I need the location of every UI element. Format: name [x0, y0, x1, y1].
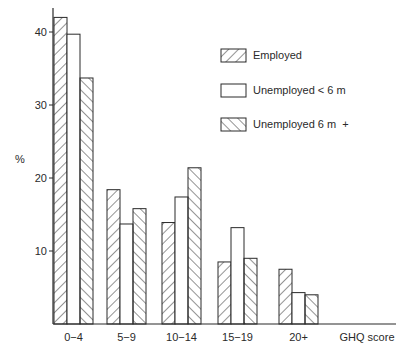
bar-unemployed-6-m-4 [244, 258, 257, 324]
legend-item-unemployed-lt-6m: Unemployed < 6 m [221, 84, 346, 97]
legend-swatch-unemployed-lt-6m [221, 84, 246, 97]
legend-swatch-unemployed-6m-plus [221, 118, 246, 131]
legend-label-employed: Employed [253, 49, 302, 61]
bar-unemployed-6-m-5 [292, 293, 305, 324]
bar-unemployed-6-m-1 [67, 34, 80, 324]
bar-unemployed-6-m-3 [175, 197, 188, 324]
bar-unemployed-6-m-4 [231, 228, 244, 324]
legend-swatch-employed [221, 49, 246, 62]
legend-label-unemployed-lt-6m: Unemployed < 6 m [253, 84, 346, 96]
x-axis-label: GHQ score [339, 331, 394, 343]
legend: Employed Unemployed < 6 m Unemployed 6 m… [221, 49, 349, 131]
bar-unemployed-6-m-2 [120, 224, 133, 324]
legend-label-unemployed-6m-plus: Unemployed 6 m + [253, 118, 349, 130]
y-tick-label: 30 [35, 99, 47, 111]
x-category-label: 15−19 [222, 331, 253, 343]
bars-group [54, 17, 318, 324]
x-category-label: 10−14 [166, 331, 197, 343]
bar-unemployed-6-m-3 [188, 168, 201, 324]
x-axis-category-labels: 0−45−910−1415−1920+ [64, 331, 308, 343]
y-axis-label: % [15, 153, 25, 165]
bar-chart: 10203040 0−45−910−1415−1920+ % GHQ score… [0, 0, 414, 354]
y-tick-label: 10 [35, 245, 47, 257]
legend-item-employed: Employed [221, 49, 302, 62]
bar-employed-4 [218, 262, 231, 324]
x-category-label: 20+ [289, 331, 308, 343]
bar-employed-2 [107, 190, 120, 324]
x-category-label: 5−9 [117, 331, 136, 343]
x-category-label: 0−4 [64, 331, 83, 343]
bar-unemployed-6-m-5 [305, 295, 318, 324]
bar-unemployed-6-m-2 [133, 209, 146, 324]
bar-employed-5 [279, 269, 292, 324]
bar-unemployed-6-m-1 [80, 78, 93, 324]
bar-employed-3 [162, 223, 175, 324]
y-tick-label: 40 [35, 26, 47, 38]
bar-employed-1 [54, 17, 67, 324]
legend-item-unemployed-6m-plus: Unemployed 6 m + [221, 118, 349, 131]
y-tick-label: 20 [35, 172, 47, 184]
y-axis-ticks: 10203040 [35, 26, 53, 257]
